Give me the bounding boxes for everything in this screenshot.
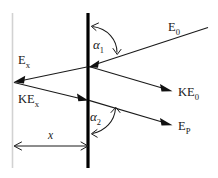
ray-diagram-figure: E0 KE0 Ex KEx EP α1 α2 x — [0, 0, 218, 178]
label-distance-x: x — [47, 129, 54, 141]
